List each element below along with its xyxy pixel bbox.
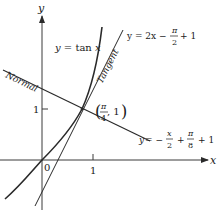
normal-equation: y = − x 2 + π 8 + 1 — [138, 129, 214, 150]
svg-text:, 1: , 1 — [107, 106, 120, 117]
svg-text:+ 1: + 1 — [180, 31, 196, 41]
svg-text:y: y — [138, 135, 145, 145]
tangency-point — [81, 108, 84, 111]
tan-curve-label: y = tan x — [54, 42, 101, 53]
svg-text:π: π — [187, 129, 194, 138]
x-axis-label: x — [210, 154, 217, 167]
svg-text:= −: = − — [145, 135, 163, 145]
svg-text:π: π — [171, 26, 178, 35]
svg-text:): ) — [121, 102, 127, 121]
svg-text:2: 2 — [172, 38, 177, 47]
svg-text:+: + — [177, 135, 185, 145]
svg-text:y = 2x −: y = 2x − — [126, 31, 167, 41]
svg-text:π: π — [100, 102, 107, 111]
point-label: ( π 4 , 1 ) — [95, 102, 127, 123]
y-tick-label: 1 — [33, 104, 39, 115]
tangent-normal-diagram: x y 1 1 0 y = tan x y = tan x Normal Tan… — [0, 0, 218, 210]
svg-text:+ 1: + 1 — [198, 135, 214, 145]
normal-label: Normal — [3, 69, 39, 94]
origin-label: 0 — [44, 162, 50, 173]
svg-text:2: 2 — [167, 141, 172, 150]
svg-text:x: x — [167, 129, 172, 138]
y-axis-label: y — [37, 2, 45, 15]
svg-text:8: 8 — [188, 141, 193, 150]
tangent-equation: y = 2x − π 2 + 1 — [126, 26, 196, 47]
x-tick-label: 1 — [90, 165, 96, 176]
svg-text:4: 4 — [101, 114, 106, 123]
